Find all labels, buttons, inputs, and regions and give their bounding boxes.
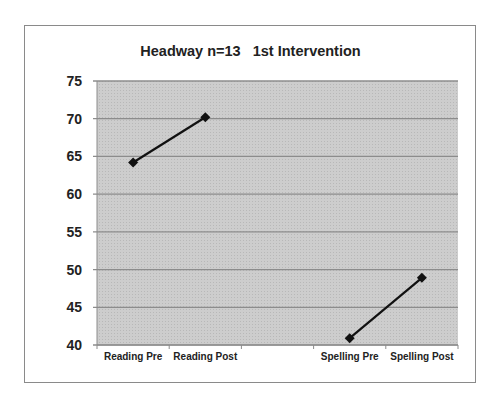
y-tick-label: 50 [66,262,82,278]
x-tick-label: Reading Post [173,351,238,362]
y-tick-label: 40 [66,337,82,353]
y-tick-label: 60 [66,186,82,202]
plot-background [97,81,458,345]
y-tick-label: 65 [66,148,82,164]
y-tick-label: 70 [66,111,82,127]
y-tick-label: 75 [66,73,82,89]
x-tick-label: Reading Pre [104,351,163,362]
x-tick-label: Spelling Pre [321,351,379,362]
plot-area: 4045505560657075Reading PreReading PostS… [66,73,458,362]
y-tick-label: 55 [66,224,82,240]
x-tick-label: Spelling Post [390,351,454,362]
line-chart: 4045505560657075Reading PreReading PostS… [0,0,501,407]
y-tick-label: 45 [66,299,82,315]
